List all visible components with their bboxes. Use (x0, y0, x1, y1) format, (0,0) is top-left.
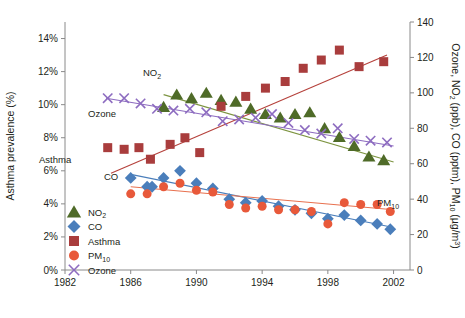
point-co (174, 165, 186, 177)
point-ozone (251, 113, 260, 122)
legend-label-no2: NO2 (88, 207, 106, 220)
x-tick-label: 1994 (251, 277, 274, 288)
y-tick-label: 2% (44, 231, 59, 242)
point-ozone (333, 124, 342, 133)
point-asthma (146, 155, 155, 164)
legend-label-asthma: Asthma (88, 236, 121, 247)
pm10-series-label: PM10 (377, 197, 399, 210)
y2-tick-label: 20 (417, 229, 429, 240)
point-ozone (202, 108, 211, 117)
point-no2 (288, 108, 301, 119)
point-pm10 (340, 198, 349, 207)
y-tick-label: 14% (38, 33, 58, 44)
point-pm10 (176, 179, 185, 188)
point-asthma (379, 57, 388, 66)
point-pm10 (323, 219, 332, 228)
figure-caption (0, 306, 465, 318)
point-no2 (185, 92, 198, 103)
point-co (371, 218, 383, 230)
y-tick-label: 10% (38, 99, 58, 110)
y-tick-label: 4% (44, 198, 59, 209)
co-series-label: CO (104, 171, 118, 182)
legend-label-pm10: PM10 (88, 250, 110, 263)
no2-series-label: NO2 (143, 67, 161, 80)
legend-marker-pm10 (69, 251, 79, 261)
chart-legend: NO2COAsthmaPM10Ozone (67, 205, 121, 275)
point-no2 (303, 106, 316, 117)
point-asthma (103, 143, 112, 152)
asthma-series-label: Asthma (39, 154, 72, 165)
point-asthma (180, 133, 189, 142)
point-pm10 (356, 200, 365, 209)
point-asthma (335, 46, 344, 55)
point-no2 (348, 140, 361, 151)
point-co (384, 223, 396, 235)
point-asthma (120, 145, 129, 154)
y2-axis-title: Ozone, NO2 (ppb), CO (pptm), PM10 (µg/m3… (449, 43, 463, 248)
y-tick-label: 8% (44, 132, 59, 143)
point-no2 (377, 154, 390, 165)
y2-tick-label: 0 (417, 265, 423, 276)
y-tick-label: 12% (38, 66, 58, 77)
x-tick-label: 1982 (54, 277, 77, 288)
point-pm10 (208, 188, 217, 197)
point-asthma (166, 140, 175, 149)
x-tick-label: 1998 (317, 277, 340, 288)
point-pm10 (225, 200, 234, 209)
point-asthma (261, 84, 270, 93)
point-asthma (241, 92, 250, 101)
asthma-pollutant-scatter-chart: 0%2%4%6%8%10%12%14%020406080100120140198… (0, 0, 465, 318)
x-tick-label: 1986 (120, 277, 143, 288)
point-co (338, 209, 350, 221)
y2-tick-label: 40 (417, 194, 429, 205)
point-asthma (134, 143, 143, 152)
point-pm10 (159, 182, 168, 191)
point-co (355, 215, 367, 227)
point-asthma (195, 148, 204, 157)
point-ozone (300, 125, 309, 134)
x-tick-label: 2002 (382, 277, 405, 288)
point-ozone (382, 138, 391, 147)
y2-tick-label: 140 (417, 17, 434, 28)
point-pm10 (241, 204, 250, 213)
legend-marker-co (67, 220, 80, 233)
point-no2 (170, 88, 183, 99)
legend-label-co: CO (88, 221, 102, 232)
point-ozone (103, 93, 112, 102)
ozone-series-label: Ozone (88, 108, 116, 119)
series-co (125, 165, 396, 235)
y2-tick-label: 100 (417, 87, 434, 98)
point-pm10 (143, 189, 152, 198)
legend-marker-asthma (69, 236, 79, 246)
point-pm10 (274, 205, 283, 214)
point-asthma (217, 102, 226, 111)
point-asthma (299, 64, 308, 73)
series-pm10 (126, 179, 395, 229)
point-asthma (355, 62, 364, 71)
legend-label-ozone: Ozone (88, 265, 116, 276)
x-tick-label: 1990 (185, 277, 208, 288)
point-pm10 (291, 205, 300, 214)
point-pm10 (192, 186, 201, 195)
y2-tick-label: 60 (417, 158, 429, 169)
y-axis-title: Asthma prevalence (%) (4, 91, 16, 200)
point-pm10 (307, 207, 316, 216)
point-no2 (229, 96, 242, 107)
point-ozone (284, 118, 293, 127)
point-ozone (169, 106, 178, 115)
point-asthma (317, 56, 326, 65)
legend-marker-no2 (67, 205, 81, 217)
point-ozone (366, 136, 375, 145)
y2-tick-label: 120 (417, 52, 434, 63)
chart-figure: 0%2%4%6%8%10%12%14%020406080100120140198… (0, 0, 465, 318)
point-co (125, 172, 137, 184)
series-ozone (103, 93, 392, 147)
y-tick-label: 0% (44, 265, 59, 276)
point-pm10 (126, 189, 135, 198)
point-no2 (200, 87, 213, 98)
point-no2 (244, 103, 257, 114)
y-tick-label: 6% (44, 165, 59, 176)
point-pm10 (258, 202, 267, 211)
y2-tick-label: 80 (417, 123, 429, 134)
point-asthma (281, 77, 290, 86)
